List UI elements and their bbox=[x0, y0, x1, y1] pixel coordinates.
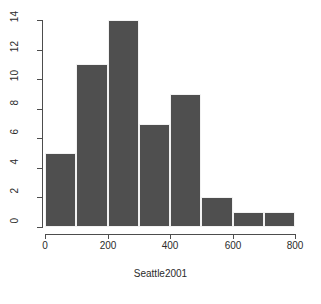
y-tick-label-10: 10 bbox=[10, 70, 32, 81]
x-tick-label-600: 600 bbox=[213, 241, 253, 251]
y-tick-label-14: 14 bbox=[10, 11, 32, 22]
y-axis-line bbox=[42, 20, 43, 228]
y-tick-label-2: 2 bbox=[10, 188, 32, 194]
y-tick-8 bbox=[37, 109, 42, 110]
x-tick-label-400: 400 bbox=[150, 241, 190, 251]
y-tick-4 bbox=[37, 168, 42, 169]
x-tick-200 bbox=[108, 234, 109, 239]
histogram-bar bbox=[201, 197, 232, 227]
x-tick-label-200: 200 bbox=[88, 241, 128, 251]
y-tick-0 bbox=[37, 227, 42, 228]
y-tick-label-4: 4 bbox=[10, 159, 32, 165]
histogram-bar bbox=[264, 212, 295, 227]
x-tick-label-800: 800 bbox=[275, 241, 315, 251]
x-tick-label-0: 0 bbox=[25, 241, 65, 251]
y-tick-10 bbox=[37, 79, 42, 80]
histogram-bar bbox=[233, 212, 264, 227]
y-tick-12 bbox=[37, 50, 42, 51]
x-tick-600 bbox=[233, 234, 234, 239]
histogram-bar bbox=[45, 153, 76, 227]
x-axis-title: Seattle2001 bbox=[0, 268, 321, 279]
y-tick-2 bbox=[37, 197, 42, 198]
y-tick-label-0: 0 bbox=[10, 218, 32, 224]
y-tick-label-8: 8 bbox=[10, 100, 32, 106]
histogram-bar bbox=[139, 124, 170, 228]
y-tick-label-12: 12 bbox=[10, 41, 32, 52]
histogram-bar bbox=[76, 64, 107, 227]
y-tick-6 bbox=[37, 138, 42, 139]
x-tick-400 bbox=[170, 234, 171, 239]
histogram-bar bbox=[108, 20, 139, 227]
plot-area: 02468101214 0200400600800 Seattle2001 bbox=[0, 0, 321, 304]
histogram-bar bbox=[170, 94, 201, 227]
y-tick-14 bbox=[37, 20, 42, 21]
x-tick-800 bbox=[295, 234, 296, 239]
x-tick-0 bbox=[45, 234, 46, 239]
y-tick-label-6: 6 bbox=[10, 129, 32, 135]
histogram-figure: 02468101214 0200400600800 Seattle2001 bbox=[0, 0, 321, 304]
